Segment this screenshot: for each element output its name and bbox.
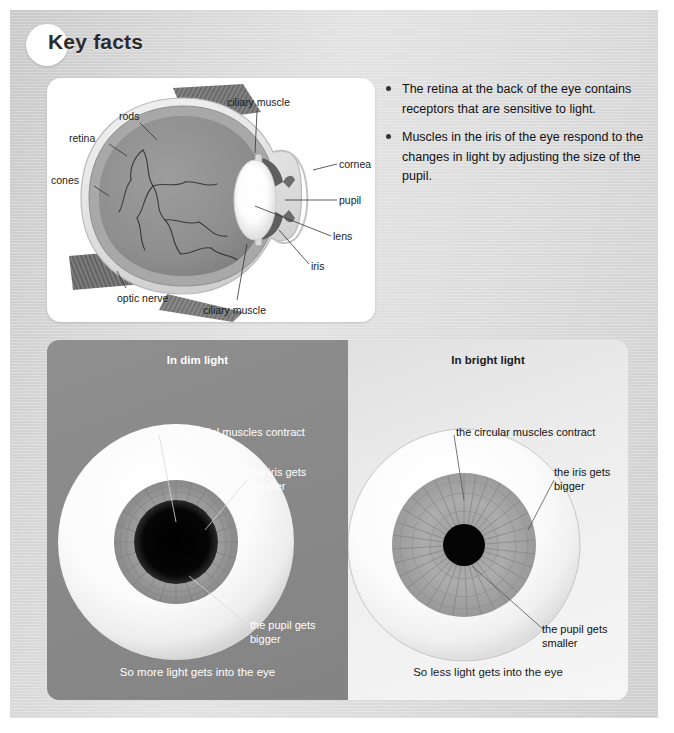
pupil-shape bbox=[443, 524, 485, 566]
list-item-text: The retina at the back of the eye contai… bbox=[402, 82, 631, 116]
panel-bright-light: In bright light bbox=[348, 340, 628, 700]
dim-label-muscles: the radial muscles contract bbox=[174, 425, 339, 439]
list-item-text: Muscles in the iris of the eye respond t… bbox=[402, 130, 643, 183]
bright-panel-footer: So less light gets into the eye bbox=[348, 666, 628, 678]
bullet-icon bbox=[386, 86, 391, 91]
page-title: Key facts bbox=[48, 30, 143, 54]
pupil-response-comparison: In dim light bbox=[47, 340, 628, 700]
dim-light-eye-diagram bbox=[47, 340, 348, 700]
anatomy-label-iris: iris bbox=[311, 260, 324, 272]
pupil-shape bbox=[134, 500, 218, 584]
anatomy-label-pupil: pupil bbox=[339, 194, 361, 206]
dim-panel-footer: So more light gets into the eye bbox=[47, 666, 348, 678]
page-bottom-margin bbox=[0, 718, 674, 733]
anatomy-label-retina: retina bbox=[69, 132, 95, 144]
bright-label-iris: the iris gets bigger bbox=[554, 465, 626, 493]
anatomy-label-ciliary-muscle-top: ciliary muscle bbox=[227, 96, 290, 108]
dim-label-pupil: the pupil gets bigger bbox=[250, 618, 330, 646]
list-item: Muscles in the iris of the eye respond t… bbox=[386, 128, 646, 187]
eye-anatomy-card: rods retina cones optic nerve ciliary mu… bbox=[47, 78, 375, 322]
anatomy-label-ciliary-muscle-bottom: ciliary muscle bbox=[203, 304, 266, 316]
anatomy-label-lens: lens bbox=[333, 230, 352, 242]
panel-dim-light: In dim light bbox=[47, 340, 348, 700]
bullet-icon bbox=[386, 134, 391, 139]
bright-label-pupil: the pupil gets smaller bbox=[542, 622, 624, 650]
eye-cross-section-diagram: rods retina cones optic nerve ciliary mu… bbox=[47, 78, 375, 322]
key-facts-header: Key facts bbox=[18, 24, 638, 64]
lens-shape bbox=[234, 160, 276, 240]
list-item: The retina at the back of the eye contai… bbox=[386, 80, 646, 119]
dim-label-iris: the iris gets smaller bbox=[250, 465, 330, 493]
page-right-margin bbox=[656, 0, 674, 733]
anatomy-label-rods: rods bbox=[119, 110, 139, 122]
key-facts-list: The retina at the back of the eye contai… bbox=[386, 80, 646, 196]
anatomy-label-optic-nerve: optic nerve bbox=[117, 292, 169, 304]
anatomy-label-cones: cones bbox=[51, 174, 79, 186]
bright-label-muscles: the circular muscles contract bbox=[456, 425, 628, 439]
anatomy-label-cornea: cornea bbox=[339, 158, 371, 170]
